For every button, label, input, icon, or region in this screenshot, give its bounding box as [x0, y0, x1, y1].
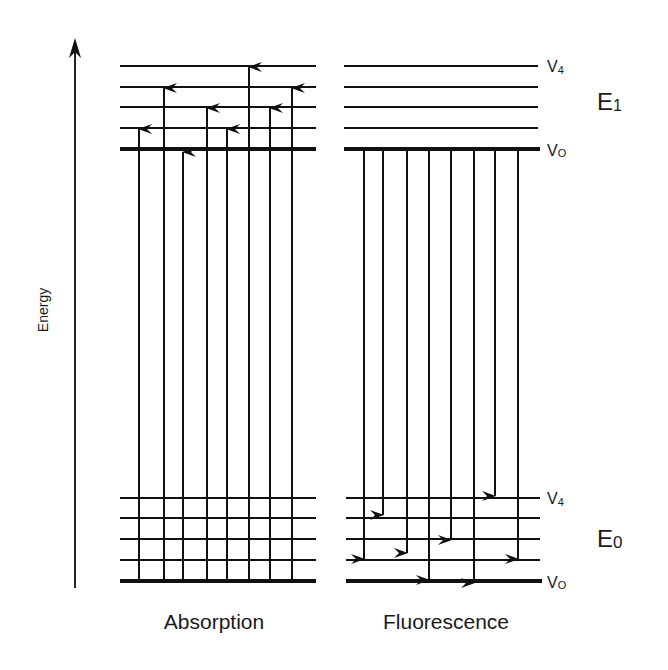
excited-v0-label: VO — [547, 142, 567, 159]
energy-axis — [69, 38, 81, 588]
ground-v0-label: VO — [547, 574, 567, 591]
fluorescence-label: Fluorescence — [383, 610, 509, 633]
absorption-excited-levels — [120, 66, 316, 149]
fluorescence-ground-levels — [346, 498, 542, 581]
absorption-label: Absorption — [164, 610, 264, 633]
excited-state-label: E1 — [597, 88, 622, 115]
ground-state-label: E0 — [597, 525, 622, 552]
absorption-ground-levels — [120, 498, 316, 581]
jablonski-diagram: Energy — [0, 0, 668, 670]
excited-v4-label: V4 — [547, 58, 564, 76]
ground-v4-label: V4 — [547, 490, 564, 508]
absorption-arrows — [139, 67, 292, 581]
fluorescence-excited-levels — [344, 66, 540, 149]
energy-axis-label: Energy — [35, 288, 51, 332]
